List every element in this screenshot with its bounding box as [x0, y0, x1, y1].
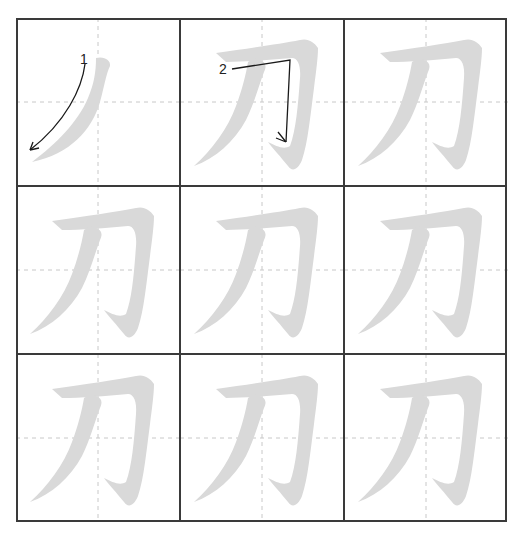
trace-cell — [344, 186, 508, 354]
cell-graphic: 1 — [16, 18, 180, 186]
grid-row-divider — [16, 353, 507, 355]
character-glyph — [30, 375, 154, 505]
trace-cell — [344, 354, 508, 522]
stroke-order-worksheet: 1 2 — [16, 18, 507, 522]
stroke-number-label: 1 — [80, 51, 88, 67]
character-glyph — [358, 375, 482, 505]
character-glyph — [358, 39, 482, 169]
character-glyph — [30, 207, 154, 337]
character-glyph — [194, 39, 318, 169]
cell-stroke-1: 1 — [16, 18, 180, 186]
trace-cell — [344, 18, 508, 186]
grid-col-divider — [179, 18, 181, 522]
trace-cell — [180, 354, 344, 522]
grid-border-left — [16, 18, 18, 522]
character-glyph — [358, 207, 482, 337]
trace-cell — [16, 354, 180, 522]
character-glyph — [194, 375, 318, 505]
character-glyph — [194, 207, 318, 337]
trace-cell — [16, 186, 180, 354]
grid-row-divider — [16, 185, 507, 187]
cell-stroke-2: 2 — [180, 18, 344, 186]
grid-border-bottom — [16, 520, 507, 522]
grid-border-top — [16, 18, 507, 20]
grid-border-right — [505, 18, 507, 522]
trace-cell — [180, 186, 344, 354]
stroke-number-label: 2 — [219, 61, 227, 77]
cell-graphic: 2 — [180, 18, 344, 186]
grid-col-divider — [343, 18, 345, 522]
arrowhead-icon — [276, 132, 286, 142]
